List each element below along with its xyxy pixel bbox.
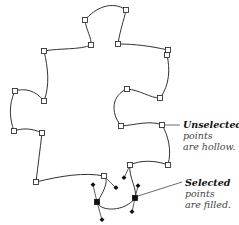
unselected-caption-line-1: points — [183, 130, 239, 141]
selected-caption-lead: Selected — [185, 177, 231, 188]
leader-lines — [138, 125, 182, 196]
puzzle-outline-path — [10, 5, 169, 209]
unselected-caption-lead: Unselected — [183, 119, 239, 130]
selected-caption-line-2: are filled. — [185, 199, 231, 210]
selected-points — [95, 196, 138, 205]
selected-caption-line-1: points — [185, 188, 231, 199]
selected-caption: Selected points are filled. — [185, 177, 231, 210]
unselected-caption: Unselected points are hollow. — [183, 119, 239, 152]
unselected-points — [12, 8, 171, 185]
unselected-caption-line-2: are hollow. — [183, 141, 239, 152]
